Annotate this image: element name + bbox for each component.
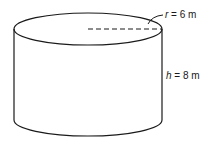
radius-value: 6 m: [180, 9, 197, 20]
radius-label: r = 6 m: [165, 10, 196, 20]
bottom-arc: [14, 120, 162, 136]
height-value: 8 m: [183, 70, 200, 81]
height-label: h = 8 m: [166, 71, 200, 81]
